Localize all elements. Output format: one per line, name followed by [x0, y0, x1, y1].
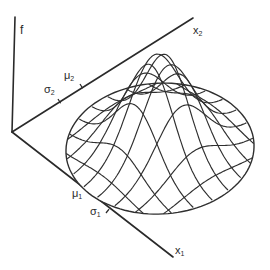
f-axis — [12, 17, 15, 132]
surface-base-outline — [66, 83, 254, 214]
f-axis-label: f — [20, 24, 23, 36]
x1-axis-label: x1 — [175, 245, 184, 257]
mu2-label: μ2 — [64, 70, 74, 82]
gaussian-surface-diagram — [0, 0, 270, 270]
x2-axis-label: x2 — [193, 25, 202, 37]
density-surface — [66, 54, 254, 214]
sigma2-label: σ2 — [44, 84, 55, 96]
sigma1-label: σ1 — [90, 206, 101, 218]
sigma1-tick — [106, 209, 109, 213]
mu1-label: μ1 — [72, 188, 82, 200]
